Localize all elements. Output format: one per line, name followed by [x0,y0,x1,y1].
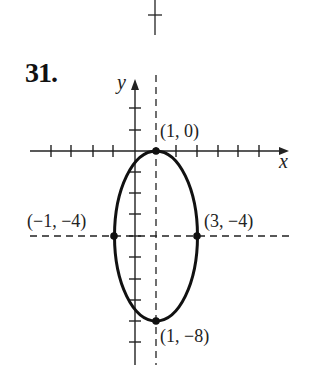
previous-graph-fragment [148,0,162,35]
y-axis-arrow-icon [131,79,139,90]
point-top [152,147,160,155]
point-left [110,232,118,240]
point-label-top: (1, 0) [160,121,199,142]
point-label-left: (−1, −4) [27,211,86,232]
y-axis-label: y [115,71,126,94]
y-axis [129,88,141,365]
x-axis-label: x [278,150,288,172]
point-right [193,232,201,240]
point-bottom [152,317,160,325]
ellipse-graph: y x (1, 0) (−1, −4) (3, −4) (1, −8) [0,0,309,385]
point-label-bottom: (1, −8) [160,326,209,347]
point-label-right: (3, −4) [204,211,253,232]
